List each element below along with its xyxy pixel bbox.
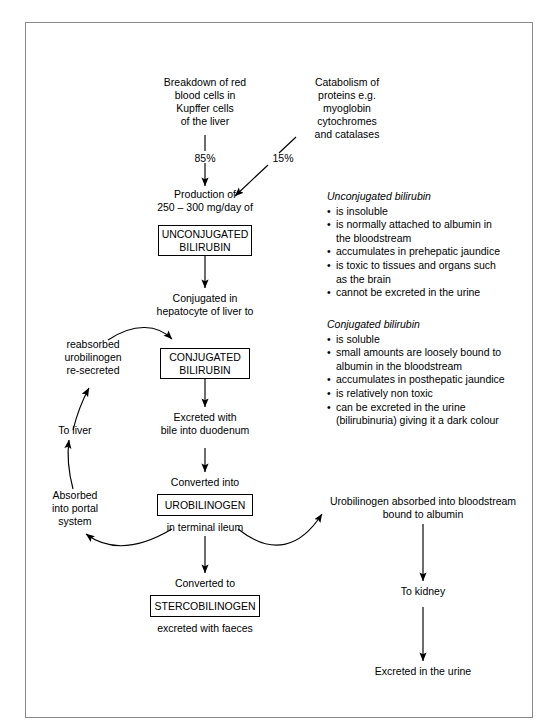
unconjugated-notes-heading: Unconjugated bilirubin — [327, 190, 527, 204]
conjugated-notes-list: is soluble small amounts are loosely bou… — [327, 333, 527, 428]
resecreted-label: reabsorbed urobilinogen re-secreted — [43, 338, 143, 377]
list-item: small amounts are loosely bound to album… — [327, 346, 527, 373]
to-kidney-label: To kidney — [383, 585, 463, 598]
list-item: cannot be excreted in the urine — [327, 286, 527, 300]
urobilinogen-box: UROBILINOGEN — [157, 494, 253, 516]
to-liver-label: To liver — [38, 424, 112, 437]
list-item: is insoluble — [327, 205, 527, 219]
conjugation-label: Conjugated in hepatocyte of liver to — [135, 292, 275, 318]
production-label: Production of 250 – 300 mg/day of — [130, 188, 280, 214]
source-rbc-label: Breakdown of red blood cells in Kupffer … — [130, 76, 280, 128]
list-item: is normally attached to albumin in the b… — [327, 218, 527, 245]
absorbed-portal-label: Absorbed into portal system — [38, 489, 112, 528]
arrow-portal-to-liver — [68, 440, 73, 489]
percent-15-label: 15% — [255, 152, 311, 165]
converted-to-label: Converted to — [145, 577, 265, 590]
conjugated-notes-panel: Conjugated bilirubin is soluble small am… — [327, 318, 527, 428]
list-item: is soluble — [327, 333, 527, 347]
list-item: is toxic to tissues and organs such as t… — [327, 259, 527, 286]
conjugated-notes-heading: Conjugated bilirubin — [327, 318, 527, 332]
list-item: accumulates in posthepatic jaundice — [327, 373, 527, 387]
source-protein-label: Catabolism of proteins e.g. myoglobin cy… — [283, 76, 411, 141]
list-item: can be excreted in the urine (bilirubinu… — [327, 401, 527, 428]
converted-into-label: Converted into — [145, 476, 265, 489]
excreted-bile-label: Excreted with bile into duodenum — [135, 411, 275, 437]
unconjugated-bilirubin-box: UNCONJUGATED BILIRUBIN — [158, 225, 252, 256]
list-item: accumulates in prehepatic jaundice — [327, 245, 527, 259]
excreted-urine-label: Excreted in the urine — [358, 665, 488, 678]
stercobilinogen-box: STERCOBILINOGEN — [150, 595, 260, 617]
conjugated-bilirubin-box: CONJUGATED BILIRUBIN — [160, 348, 250, 379]
list-item: is relatively non toxic — [327, 387, 527, 401]
percent-85-label: 85% — [177, 152, 233, 165]
unconjugated-notes-panel: Unconjugated bilirubin is insoluble is n… — [327, 190, 527, 300]
excreted-faeces-label: excreted with faeces — [140, 622, 270, 635]
unconjugated-notes-list: is insoluble is normally attached to alb… — [327, 205, 527, 300]
terminal-ileum-label: in terminal ileum — [145, 521, 265, 534]
absorbed-bloodstream-label: Urobilinogen absorbed into bloodstream b… — [319, 495, 527, 521]
